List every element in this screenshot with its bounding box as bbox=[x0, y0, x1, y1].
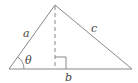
triangle-diagram: a c θ b bbox=[0, 0, 138, 83]
label-theta: θ bbox=[25, 54, 32, 67]
label-c: c bbox=[91, 22, 97, 35]
angle-arc bbox=[18, 57, 24, 69]
triangle-figure: a c θ b bbox=[0, 0, 138, 83]
side-c bbox=[55, 5, 132, 69]
right-angle-marker bbox=[55, 57, 66, 69]
side-a bbox=[9, 5, 55, 69]
label-b: b bbox=[65, 71, 72, 83]
label-a: a bbox=[23, 27, 30, 40]
